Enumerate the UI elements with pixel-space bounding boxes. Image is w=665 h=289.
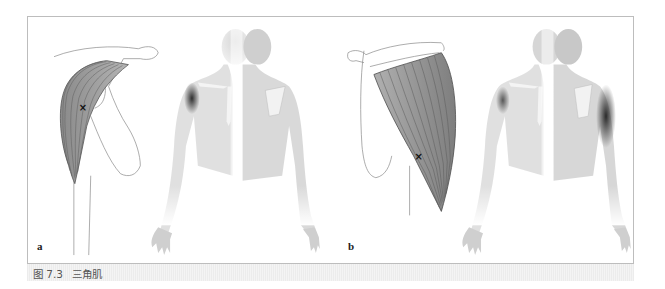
referral-pain-zone-front	[496, 86, 510, 114]
referral-pain-zone-back	[596, 84, 616, 147]
body-front-view	[151, 17, 319, 263]
referral-pain-zone	[184, 82, 200, 114]
body-front-back-view	[462, 17, 630, 263]
figure-caption: 图 7.3三角肌	[27, 264, 634, 281]
caption-figure-number: 图 7.3	[33, 268, 63, 280]
panel-label-b: b	[348, 240, 354, 252]
panel-b: × b	[333, 17, 635, 263]
trigger-point-marker: ×	[79, 102, 87, 113]
anterior-deltoid-illustration: ×	[28, 17, 333, 263]
anterior-deltoid-muscle	[60, 61, 128, 184]
caption-title: 三角肌	[72, 268, 102, 280]
posterior-deltoid-muscle	[374, 53, 456, 212]
panel-label-a: a	[37, 240, 43, 252]
panel-a: × a	[28, 17, 333, 263]
caption-text: 图 7.3三角肌	[33, 266, 102, 281]
figure-frame: × a	[27, 16, 634, 264]
trigger-point-marker: ×	[415, 151, 423, 162]
posterior-deltoid-illustration: ×	[333, 17, 635, 263]
